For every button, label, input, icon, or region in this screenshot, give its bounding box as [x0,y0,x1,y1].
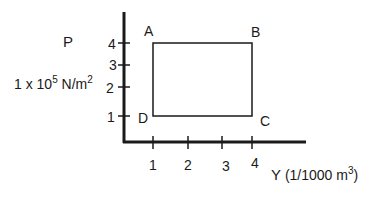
point-label-c: C [260,114,270,128]
y-unit-base-exponent: 2 [87,74,93,85]
x-tick-label-2: 2 [184,158,192,172]
x-tick-label-1: 1 [149,158,157,172]
pv-diagram: P 1 x 105 N/m2 4 3 2 1 1 2 3 4 Y (1/1000… [0,0,390,197]
y-axis-unit: 1 x 105 N/m2 [14,75,93,91]
y-axis-symbol: P [63,34,73,49]
y-tick-label-4: 4 [108,37,116,51]
x-unit-open: (1/1000 m [285,167,348,183]
x-tick-label-4: 4 [251,156,259,170]
cycle-rectangle [153,43,252,116]
x-unit-close: ) [354,167,359,183]
x-axis-label: Y (1/1000 m3) [271,166,358,182]
point-label-d: D [138,111,148,125]
y-tick-label-3: 3 [109,58,117,72]
y-unit-exponent: 5 [52,74,58,85]
y-unit-base: N/m [62,76,88,92]
x-tick-label-3: 3 [222,159,230,173]
point-label-a: A [144,24,153,38]
y-tick-label-1: 1 [107,110,115,124]
x-axis-symbol: Y [271,166,281,183]
point-label-b: B [251,25,260,39]
y-unit-prefix: 1 x 10 [14,76,52,92]
y-tick-label-2: 2 [106,81,114,95]
